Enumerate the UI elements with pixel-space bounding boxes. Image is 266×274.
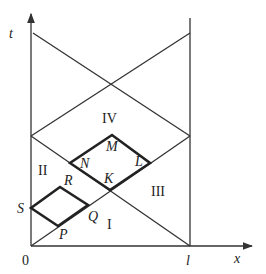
point-K: K <box>104 172 113 186</box>
region-II: II <box>38 164 47 178</box>
diamond-SPQR <box>31 187 88 226</box>
point-S: S <box>17 202 24 216</box>
point-R: R <box>64 174 73 188</box>
point-Q: Q <box>88 210 98 224</box>
region-III: III <box>151 185 165 199</box>
characteristics-diagram <box>0 0 266 274</box>
origin-label: 0 <box>22 254 29 268</box>
point-M: M <box>106 140 118 154</box>
point-L: L <box>135 155 143 169</box>
point-N: N <box>80 157 89 171</box>
l-label: l <box>186 254 190 268</box>
region-IV: IV <box>102 112 117 126</box>
t-axis-label: t <box>9 27 13 41</box>
point-P: P <box>59 228 68 242</box>
region-I: I <box>107 218 112 232</box>
x-axis-label: x <box>234 252 240 266</box>
